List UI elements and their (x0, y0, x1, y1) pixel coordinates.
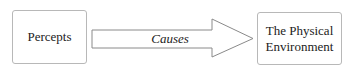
edge-label-causes: Causes (130, 30, 210, 48)
node-environment-label-line1: The Physical (266, 23, 334, 39)
node-environment-label-line2: Environment (266, 39, 334, 55)
node-physical-environment: The Physical Environment (257, 12, 342, 65)
